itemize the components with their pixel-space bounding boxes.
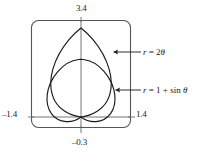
y-max-label: 3.4 — [76, 3, 87, 13]
y-min-label: –0.3 — [72, 137, 87, 147]
leader-line-spiral — [114, 50, 142, 55]
curve-label-cardioid-theta: θ — [183, 85, 187, 95]
curve-label-spiral: r = 2θ — [143, 47, 165, 57]
curve-label-spiral-eq: = 2 — [147, 47, 161, 57]
curve-label-cardioid-eq: = 1 + sin — [147, 85, 183, 95]
leader-line-cardioid — [116, 88, 142, 93]
polar-graph-figure: 3.4 –1.4 1.4 –0.3 r = 2θ r = 1 + sin θ — [0, 0, 200, 155]
plot-canvas — [0, 0, 200, 155]
curve-label-spiral-theta: θ — [161, 47, 165, 57]
curve-label-cardioid: r = 1 + sin θ — [143, 85, 187, 95]
x-min-label: –1.4 — [2, 109, 17, 119]
x-max-label: 1.4 — [136, 109, 147, 119]
